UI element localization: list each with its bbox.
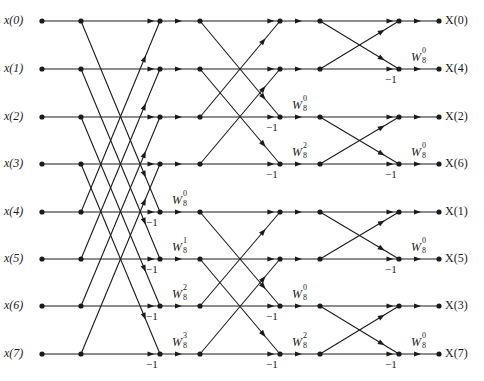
input-label-5: x(5) [4, 251, 23, 266]
arrowhead-icon [147, 351, 154, 356]
twiddle-subscript: 8 [303, 342, 307, 350]
node-dot [157, 256, 162, 261]
node-dot [317, 114, 322, 119]
arrowhead-icon [377, 340, 384, 346]
arrowhead-icon [377, 150, 384, 156]
arrowhead-icon [295, 18, 302, 23]
node-dot [157, 66, 162, 71]
node-dot [277, 351, 282, 356]
arrowhead-icon [141, 265, 146, 272]
node-dot [277, 161, 282, 166]
node-dot [78, 256, 83, 261]
arrowhead-icon [386, 66, 393, 71]
twiddle-exponent: 0 [422, 332, 426, 340]
node-dot [197, 66, 202, 71]
arrowhead-icon [414, 66, 421, 71]
twiddle-base: W [292, 145, 302, 159]
negation-label: −1 [146, 263, 158, 275]
arrowhead-icon [141, 198, 146, 205]
node-dot [157, 18, 162, 23]
twiddle-subscript: 8 [422, 247, 426, 255]
arrowhead-icon [295, 256, 302, 261]
twiddle-base: W [411, 335, 421, 349]
node-dot [396, 256, 401, 261]
node-dot [277, 18, 282, 23]
arrowhead-icon [414, 18, 421, 23]
arrowhead-icon [267, 256, 274, 261]
arrowhead-icon [175, 303, 182, 308]
negation-label: −1 [266, 310, 278, 322]
twiddle-subscript: 8 [303, 294, 307, 302]
twiddle-w8-0: W08 [411, 241, 421, 253]
negation-label: −1 [266, 358, 278, 370]
twiddle-base: W [292, 287, 302, 301]
twiddle-base: W [411, 50, 421, 64]
node-dot [436, 18, 441, 23]
negation-label: −1 [266, 168, 278, 180]
twiddle-exponent: 0 [303, 95, 307, 103]
arrowhead-icon [386, 161, 393, 166]
twiddle-exponent: 0 [422, 142, 426, 150]
node-dot [317, 256, 322, 261]
twiddle-w8-0: W08 [411, 146, 421, 158]
twiddle-exponent: 2 [303, 142, 307, 150]
node-dot [436, 303, 441, 308]
twiddle-base: W [172, 287, 182, 301]
twiddle-subscript: 8 [183, 342, 187, 350]
twiddle-subscript: 8 [183, 247, 187, 255]
node-dot [197, 114, 202, 119]
node-dot [39, 351, 44, 356]
arrowhead-icon [175, 351, 182, 356]
negation-label: −1 [385, 168, 397, 180]
arrowhead-icon [175, 18, 182, 23]
node-dot [39, 209, 44, 214]
node-dot [78, 66, 83, 71]
arrowhead-icon [141, 170, 146, 177]
negation-label: −1 [146, 310, 158, 322]
arrowhead-icon [147, 303, 154, 308]
node-dot [396, 161, 401, 166]
arrowhead-icon [147, 18, 154, 23]
twiddle-subscript: 8 [422, 57, 426, 65]
twiddle-subscript: 8 [183, 200, 187, 208]
node-dot [317, 18, 322, 23]
input-label-7: x(7) [4, 346, 23, 361]
twiddle-w8-0: W08 [411, 336, 421, 348]
output-label-0: X(0) [445, 13, 468, 28]
arrowhead-icon [377, 125, 384, 131]
node-dot [317, 351, 322, 356]
twiddle-w8-2: W28 [292, 146, 302, 158]
node-dot [436, 114, 441, 119]
node-dot [277, 209, 282, 214]
twiddle-exponent: 0 [183, 190, 187, 198]
twiddle-w8-3: W38 [172, 336, 182, 348]
output-label-4: X(1) [445, 204, 468, 219]
node-dot [396, 351, 401, 356]
arrowhead-icon [386, 256, 393, 261]
arrowhead-icon [147, 256, 154, 261]
node-dot [277, 256, 282, 261]
twiddle-exponent: 2 [303, 332, 307, 340]
node-dot [197, 303, 202, 308]
arrowhead-icon [377, 55, 384, 61]
node-dot [317, 161, 322, 166]
output-label-7: X(7) [445, 346, 468, 361]
node-dot [39, 114, 44, 119]
node-dot [157, 209, 162, 214]
twiddle-exponent: 3 [183, 332, 187, 340]
arrowhead-icon [386, 351, 393, 356]
twiddle-subscript: 8 [422, 152, 426, 160]
arrowhead-icon [295, 303, 302, 308]
arrowhead-icon [377, 30, 384, 36]
input-label-1: x(1) [4, 61, 23, 76]
negation-label: −1 [385, 263, 397, 275]
arrowhead-icon [414, 351, 421, 356]
twiddle-base: W [292, 98, 302, 112]
node-dot [317, 66, 322, 71]
twiddle-base: W [172, 240, 182, 254]
twiddle-w8-0: W08 [172, 194, 182, 206]
twiddle-exponent: 0 [303, 284, 307, 292]
output-label-1: X(4) [445, 61, 468, 76]
node-dot [39, 161, 44, 166]
arrowhead-icon [267, 18, 274, 23]
